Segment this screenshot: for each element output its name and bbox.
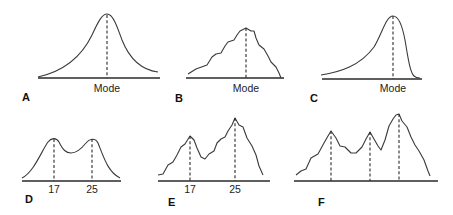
panel-a-mode-label: Mode bbox=[94, 82, 120, 94]
panel-b-mode-label: Mode bbox=[233, 82, 259, 94]
panel-b-curve bbox=[188, 28, 281, 78]
panel-a-label: A bbox=[22, 91, 30, 103]
panel-e-label: E bbox=[168, 196, 175, 208]
panel-e: 17 25 E bbox=[158, 118, 270, 208]
panel-a-curve bbox=[38, 14, 158, 77]
panel-a: Mode A bbox=[22, 14, 160, 103]
panel-f: F bbox=[294, 114, 438, 208]
panel-d-curve bbox=[22, 139, 120, 178]
panel-b-label: B bbox=[175, 92, 183, 104]
distribution-shapes-figure: Mode A Mode B Mode C 17 25 D 17 25 E bbox=[0, 0, 453, 215]
panel-c: Mode C bbox=[310, 16, 422, 104]
panel-e-peak-label-2: 25 bbox=[229, 183, 241, 195]
panel-d-peak-label-2: 25 bbox=[86, 183, 98, 195]
panel-d-peak-label-1: 17 bbox=[48, 183, 60, 195]
panel-c-curve bbox=[321, 16, 420, 78]
panel-b: Mode B bbox=[175, 28, 284, 104]
panel-e-curve bbox=[158, 118, 263, 175]
panel-d: 17 25 D bbox=[22, 139, 121, 205]
panel-c-mode-label: Mode bbox=[380, 82, 406, 94]
panel-f-curve bbox=[296, 114, 430, 176]
panel-f-label: F bbox=[318, 196, 325, 208]
panel-c-label: C bbox=[310, 92, 318, 104]
panel-e-peak-label-1: 17 bbox=[184, 183, 196, 195]
panel-d-label: D bbox=[25, 193, 33, 205]
